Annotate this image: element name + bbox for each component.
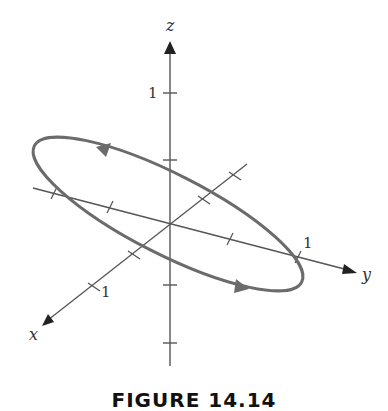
x-axis-arrowhead-icon: [42, 314, 54, 326]
x-tick-label: 1: [101, 283, 111, 301]
z-axis-arrowhead-icon: [164, 41, 176, 54]
z-tick-label: 1: [148, 84, 158, 102]
y-tick-label: 1: [303, 234, 313, 252]
x-axis-label: x: [29, 325, 38, 344]
y-axis-arrowhead-icon: [342, 264, 357, 274]
z-axis: [163, 52, 177, 366]
z-axis-label: z: [165, 16, 175, 35]
figure-caption: FIGURE 14.14: [0, 388, 388, 411]
curve-direction-arrow-upper-icon: [96, 143, 111, 157]
y-axis: [33, 187, 352, 271]
y-axis-label: y: [361, 265, 372, 284]
x-axis: [48, 164, 247, 320]
elliptical-curve: [16, 110, 320, 317]
